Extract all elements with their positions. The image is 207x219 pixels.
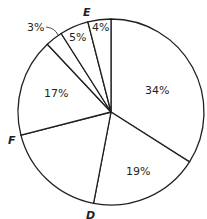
slice-label-3: 3% — [27, 21, 44, 34]
slice-label-19: 19% — [126, 165, 150, 178]
point-label-f: F — [8, 134, 16, 147]
leader-line-3 — [46, 27, 58, 35]
slice-label-4: 4% — [92, 21, 109, 34]
slice-label-17: 17% — [44, 87, 68, 100]
pie-chart: 34% 19% 17% 3% 5% 4% E F D — [0, 0, 207, 219]
slice-label-34: 34% — [145, 84, 169, 97]
point-label-d: D — [86, 209, 95, 219]
point-label-e: E — [83, 6, 91, 19]
pie-slices — [18, 19, 204, 205]
slice-label-5: 5% — [69, 31, 86, 44]
